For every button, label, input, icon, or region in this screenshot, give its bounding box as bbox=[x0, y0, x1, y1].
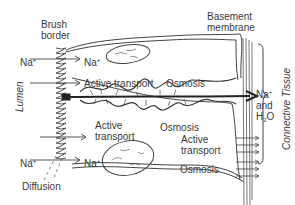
osmosis-bottom-label: Osmosis bbox=[180, 164, 219, 175]
na-ion-top-left: Na+ bbox=[20, 55, 36, 68]
active-transport-1-label: Active transport bbox=[95, 120, 134, 142]
active-transport-top-label: Active transport bbox=[84, 78, 153, 89]
na-ion-bottom-left: Na+ bbox=[20, 156, 36, 169]
basement-membrane-label: Basement membrane bbox=[207, 11, 255, 33]
nuclei bbox=[99, 42, 157, 180]
basement-membrane bbox=[243, 38, 252, 205]
na-ion-bottom-right: Na+ bbox=[84, 156, 100, 169]
active-transport-2-label: Active transport bbox=[181, 134, 220, 156]
exit-arrows bbox=[236, 136, 259, 178]
osmosis-top-label: Osmosis bbox=[166, 78, 205, 89]
lumen-label: Lumen bbox=[14, 81, 25, 112]
brush-border-microvilli bbox=[56, 48, 66, 159]
connective-tissue-label: Connective Tissue bbox=[281, 68, 292, 150]
brush-border-label: Brush border bbox=[41, 19, 70, 41]
output-na-h2o-label: Na+ and H2O bbox=[256, 87, 274, 126]
diffusion-label: Diffusion bbox=[22, 181, 61, 192]
osmosis-mid-label: Osmosis bbox=[160, 122, 199, 133]
na-ion-top-right: Na+ bbox=[84, 55, 100, 68]
